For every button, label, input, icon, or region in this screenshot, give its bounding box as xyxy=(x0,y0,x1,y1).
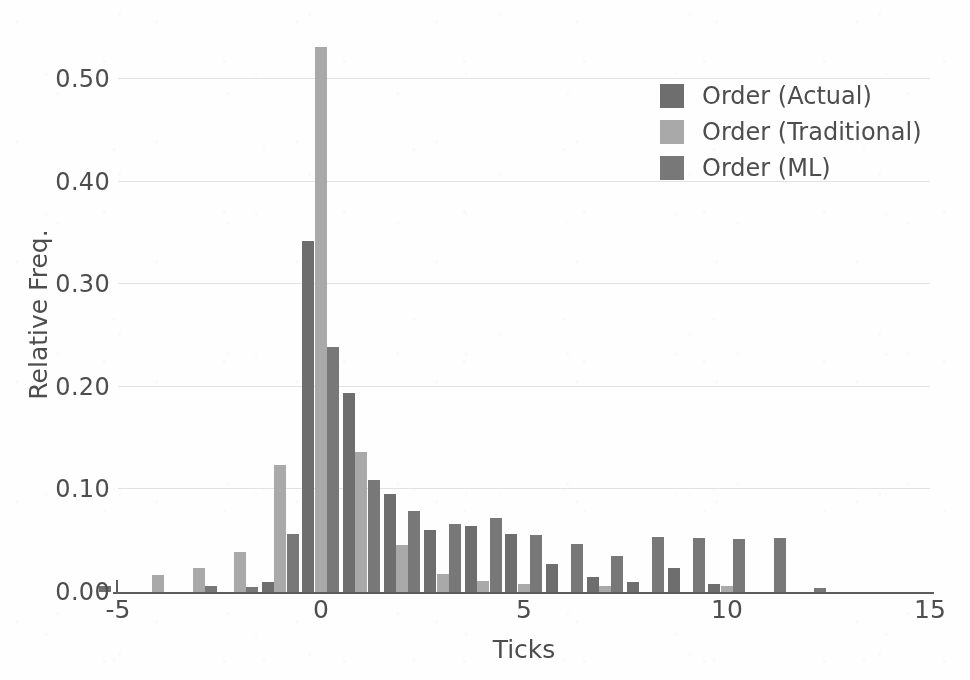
bar xyxy=(627,582,639,592)
bar xyxy=(368,480,380,592)
chart-legend: Order (Actual)Order (Traditional)Order (… xyxy=(660,78,922,186)
bar xyxy=(449,524,461,592)
bar xyxy=(490,518,502,592)
bar xyxy=(546,564,558,592)
bar xyxy=(287,534,299,592)
bar xyxy=(571,544,583,592)
x-tick-label: -5 xyxy=(78,597,158,622)
bar xyxy=(343,393,355,592)
bar xyxy=(505,534,517,592)
bar xyxy=(315,47,327,592)
bar xyxy=(733,539,745,592)
bar xyxy=(587,577,599,592)
x-tick-label: 0 xyxy=(281,597,361,622)
bar xyxy=(611,556,623,592)
chart-figure: 0.000.100.200.300.400.50 -5051015 Ticks … xyxy=(0,0,970,680)
bar xyxy=(355,452,367,592)
legend-swatch-icon xyxy=(660,120,684,144)
bar xyxy=(774,538,786,592)
legend-label: Order (Actual) xyxy=(702,82,872,110)
legend-item[interactable]: Order (ML) xyxy=(660,150,922,186)
gridline-y-3 xyxy=(118,283,930,284)
x-tick-label: 5 xyxy=(484,597,564,622)
x-tick-label: 10 xyxy=(687,597,767,622)
bar xyxy=(477,581,489,592)
legend-item[interactable]: Order (Actual) xyxy=(660,78,922,114)
bar xyxy=(193,568,205,592)
bar xyxy=(262,582,274,592)
bar xyxy=(302,241,314,592)
y-tick-label: 0.10 xyxy=(32,477,110,501)
bar xyxy=(408,511,420,592)
gridline-y-2 xyxy=(118,386,930,387)
bar xyxy=(384,494,396,592)
y-tick-label: 0.50 xyxy=(32,67,110,91)
bar xyxy=(465,526,477,592)
bar xyxy=(668,568,680,592)
bar xyxy=(327,347,339,592)
bar xyxy=(530,535,542,592)
bar xyxy=(518,584,530,592)
legend-label: Order (ML) xyxy=(702,154,831,182)
bar xyxy=(652,537,664,592)
x-tick-label: 15 xyxy=(890,597,970,622)
bar xyxy=(693,538,705,592)
bar xyxy=(424,530,436,592)
legend-swatch-icon xyxy=(660,156,684,180)
legend-label: Order (Traditional) xyxy=(702,118,922,146)
gridline-y-1 xyxy=(118,488,930,489)
legend-swatch-icon xyxy=(660,84,684,108)
x-axis-title: Ticks xyxy=(118,635,930,664)
bar xyxy=(708,584,720,592)
y-axis-line xyxy=(116,580,118,593)
bar xyxy=(152,575,164,592)
bar xyxy=(396,545,408,592)
x-axis-line xyxy=(113,592,934,594)
bar xyxy=(437,574,449,592)
bar xyxy=(234,552,246,592)
bar xyxy=(274,465,286,592)
legend-item[interactable]: Order (Traditional) xyxy=(660,114,922,150)
y-axis-title: Relative Freq. xyxy=(24,185,53,445)
